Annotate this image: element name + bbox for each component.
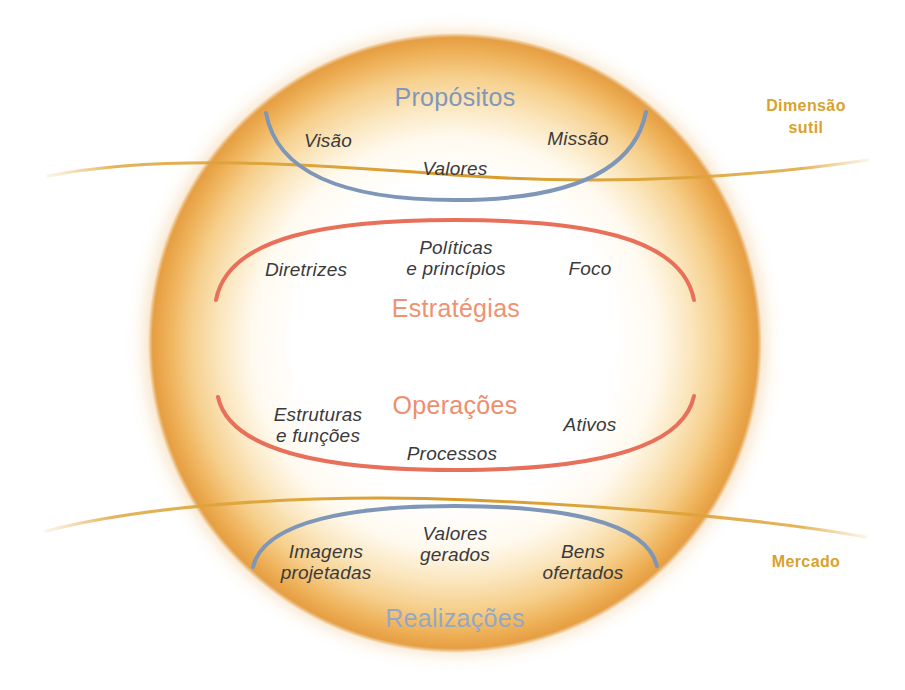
sphere-illustration <box>0 0 905 690</box>
diagram-canvas: Propósitos Visão Valores Missão Diretriz… <box>0 0 905 690</box>
sphere-body <box>148 33 762 653</box>
